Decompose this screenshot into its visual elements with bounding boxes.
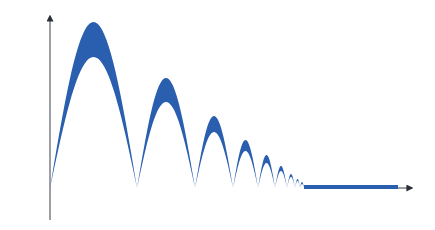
arches-group <box>50 22 304 188</box>
arch-7 <box>287 174 295 188</box>
arch-8 <box>295 179 300 188</box>
arch-5 <box>258 155 275 188</box>
bounce-diagram <box>0 0 435 230</box>
arch-6 <box>275 166 287 188</box>
arch-4 <box>233 140 258 188</box>
arch-3 <box>195 116 233 188</box>
diagram-canvas <box>0 0 435 230</box>
arch-2 <box>137 78 195 188</box>
arch-1 <box>50 22 137 188</box>
flat-band <box>304 185 398 189</box>
